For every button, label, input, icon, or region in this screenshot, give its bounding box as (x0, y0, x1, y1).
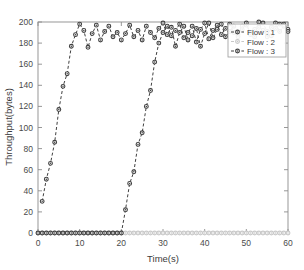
data-point-center (229, 232, 231, 234)
data-point-center (75, 34, 77, 36)
data-point-center (179, 232, 181, 234)
data-point-center (191, 35, 193, 37)
data-point-center (71, 232, 73, 234)
y-tick-label: 180 (19, 38, 33, 48)
data-point-center (96, 24, 98, 26)
data-point-center (112, 36, 114, 38)
data-point-center (133, 171, 135, 173)
data-point-center (129, 232, 131, 234)
data-point-center (279, 232, 281, 234)
y-tick-label: 100 (19, 123, 33, 133)
data-point-center (221, 34, 223, 36)
data-point-center (212, 232, 214, 234)
data-point-center (125, 232, 127, 234)
y-axis-title: Throughput(bytes) (3, 88, 14, 166)
data-point-center (100, 232, 102, 234)
x-tick-label: 10 (75, 238, 85, 248)
data-point-center (158, 28, 160, 30)
data-point-center (50, 163, 52, 165)
data-point-center (162, 22, 164, 24)
data-point-center (58, 109, 60, 111)
x-tick-label: 0 (36, 238, 41, 248)
data-point-center (183, 37, 185, 39)
data-point-center (112, 232, 114, 234)
data-point-center (216, 24, 218, 26)
data-point-center (46, 178, 48, 180)
data-point-center (129, 24, 131, 26)
data-point-center (62, 86, 64, 88)
data-point-center (79, 23, 81, 25)
data-point-center (150, 32, 152, 34)
legend-label: Flow : 3 (247, 47, 276, 56)
legend-marker-center (237, 50, 239, 52)
data-point-center (137, 144, 139, 146)
data-point-center (225, 36, 227, 38)
data-point-center (191, 25, 193, 27)
data-point-center (66, 232, 68, 234)
data-point-center (216, 232, 218, 234)
data-point-center (175, 232, 177, 234)
data-point-center (262, 232, 264, 234)
data-point-center (225, 28, 227, 30)
data-point-center (154, 37, 156, 39)
data-point-center (54, 232, 56, 234)
x-tick-label: 20 (117, 238, 127, 248)
y-tick-label: 20 (24, 207, 34, 217)
data-point-center (141, 132, 143, 134)
data-point-center (54, 142, 56, 144)
data-point-center (271, 232, 273, 234)
chart-legend[interactable]: Flow : 1Flow : 2Flow : 3 (228, 24, 286, 57)
data-point-center (87, 232, 89, 234)
data-point-center (179, 32, 181, 34)
data-point-center (241, 232, 243, 234)
data-point-center (171, 232, 173, 234)
data-point-center (116, 32, 118, 34)
data-point-center (125, 209, 127, 211)
data-point-center (83, 232, 85, 234)
data-point-center (166, 34, 168, 36)
data-point-center (204, 22, 206, 24)
data-point-center (208, 38, 210, 40)
data-point-center (129, 183, 131, 185)
data-point-center (204, 33, 206, 35)
legend-label: Flow : 2 (247, 38, 276, 47)
x-tick-label: 30 (158, 238, 168, 248)
data-point-center (162, 232, 164, 234)
data-point-center (116, 232, 118, 234)
data-point-center (212, 37, 214, 39)
data-point-center (233, 232, 235, 234)
data-point-center (200, 232, 202, 234)
data-point-center (37, 232, 39, 234)
data-point-center (154, 232, 156, 234)
x-tick-label: 50 (242, 238, 252, 248)
data-point-center (200, 46, 202, 48)
data-point-center (146, 232, 148, 234)
x-axis-tick-labels: 0102030405060 (36, 238, 293, 248)
data-point-center (162, 32, 164, 34)
data-point-center (187, 39, 189, 41)
data-point-center (287, 232, 289, 234)
y-tick-label: 40 (24, 186, 34, 196)
data-point-center (91, 33, 93, 35)
data-point-center (246, 232, 248, 234)
data-point-center (175, 46, 177, 48)
data-point-center (71, 46, 73, 48)
data-point-center (46, 232, 48, 234)
legend-marker-center (237, 31, 239, 33)
data-point-center (125, 33, 127, 35)
x-axis-title: Time(s) (147, 253, 179, 264)
data-point-center (275, 22, 277, 24)
legend-label: Flow : 1 (247, 28, 276, 37)
data-point-center (191, 232, 193, 234)
data-point-center (196, 28, 198, 30)
data-point-center (158, 232, 160, 234)
data-point-center (41, 232, 43, 234)
data-point-center (158, 42, 160, 44)
data-point-center (75, 232, 77, 234)
data-point-center (171, 27, 173, 29)
data-point-center (66, 73, 68, 75)
x-tick-label: 60 (283, 238, 293, 248)
data-point-center (187, 32, 189, 34)
data-point-center (258, 21, 260, 23)
data-point-center (91, 232, 93, 234)
